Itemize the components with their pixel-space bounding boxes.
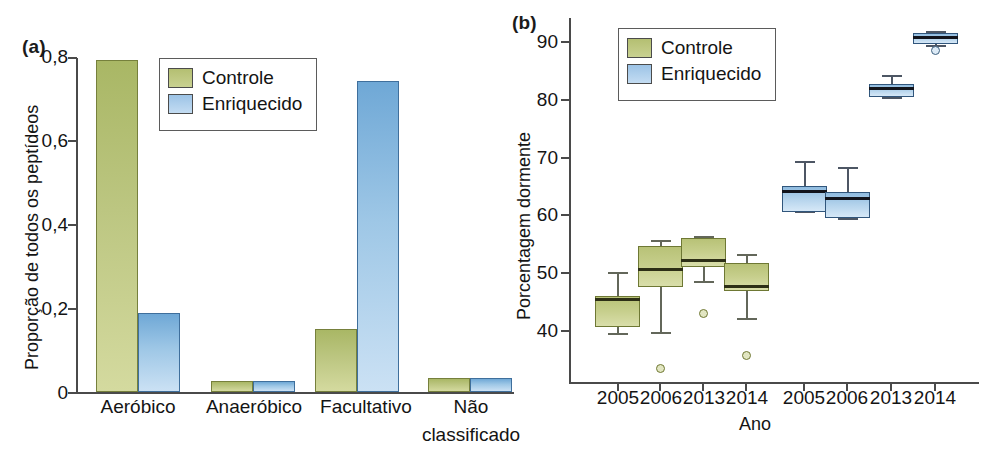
panel-b-ytick-mark-80: [561, 99, 570, 101]
panel-a-ytick-2: 0,4: [28, 214, 68, 236]
panel-b-legend-label-enriquecido: Enriquecido: [661, 63, 761, 85]
panel-a-x-axis-line: [76, 392, 514, 394]
panel-a-tick-1: [68, 308, 77, 310]
panel-b-ytick-mark-70: [561, 157, 570, 159]
panel-b-ytick-60: 60: [516, 204, 558, 226]
panel-b-ytick-mark-90: [561, 41, 570, 43]
box-controle-2006: [638, 246, 683, 287]
panel-b-xtick-7: 2014: [904, 387, 966, 409]
median-controle-2005: [595, 298, 640, 301]
panel-a-legend-label-controle: Controle: [202, 67, 274, 89]
panel-a-xtick-facultativo: Facultativo: [306, 396, 426, 418]
legend-swatch-enriquecido-icon: [168, 94, 193, 114]
outlier-controle-2013: [699, 309, 708, 318]
bar-controle-anaerobico: [211, 381, 253, 392]
panel-a-legend: Controle Enriquecido: [159, 58, 317, 131]
whisker-cap-bottom-controle-2005: [608, 333, 628, 335]
bar-enriquecido-aerobico: [138, 313, 180, 392]
whisker-cap-bottom-enriquecido-2013: [882, 97, 902, 99]
panel-b-legend-label-controle: Controle: [661, 37, 733, 59]
panel-b-ytick-80: 80: [516, 89, 558, 111]
panel-a-tick-2: [68, 224, 77, 226]
panel-a-legend-row-enriquecido: Enriquecido: [168, 91, 306, 117]
box-enriquecido-2013: [869, 84, 914, 97]
median-enriquecido-2006: [825, 197, 870, 200]
panel-a-y-axis-line: [76, 58, 78, 394]
panel-b-ytick-mark-50: [561, 272, 570, 274]
panel-a-tick-4: [68, 57, 77, 59]
outlier-controle-2014: [742, 351, 751, 360]
median-enriquecido-2013: [869, 87, 914, 90]
whisker-cap-top-enriquecido-2013: [882, 75, 902, 77]
panel-b-xtick-3: 2014: [716, 387, 778, 409]
whisker-cap-bottom-controle-2006: [651, 332, 671, 334]
bar-controle-facultativo: [315, 329, 357, 392]
panel-a-ytick-1: 0,2: [28, 298, 68, 320]
median-enriquecido-2005: [782, 190, 827, 193]
bar-enriquecido-facultativo: [357, 81, 399, 392]
panel-a-xtick-aerobico: Aeróbico: [78, 396, 198, 418]
box-enriquecido-2006: [825, 192, 870, 218]
median-controle-2013: [681, 259, 726, 262]
panel-b-ytick-90: 90: [516, 31, 558, 53]
legend-swatch-controle-icon: [627, 38, 652, 58]
median-enriquecido-2014: [913, 36, 958, 39]
outlier-enriquecido-2014: [931, 46, 940, 55]
panel-b-box-plot: (b) Porcentagem dormente 90 80 70 60 50 …: [490, 0, 981, 462]
whisker-cap-bottom-controle-2014: [737, 318, 757, 320]
panel-a-legend-row-controle: Controle: [168, 65, 306, 91]
bar-controle-nao-classificado: [428, 378, 470, 392]
whisker-cap-top-controle-2005: [608, 272, 628, 274]
scientific-figure: (a) Proporção de todos os peptídeos 0 0,…: [0, 0, 981, 462]
whisker-cap-bottom-enriquecido-2006: [838, 218, 858, 220]
bar-controle-aerobico: [96, 60, 138, 392]
panel-a-ytick-0: 0: [28, 382, 68, 404]
median-controle-2014: [724, 285, 769, 288]
panel-a-tick-0: [68, 392, 77, 394]
panel-b-x-axis-title: Ano: [739, 414, 771, 435]
bar-enriquecido-anaerobico: [253, 381, 295, 392]
panel-b-x-axis-line: [569, 382, 979, 384]
panel-a-ytick-3: 0,6: [28, 130, 68, 152]
whisker-cap-top-controle-2014: [737, 254, 757, 256]
panel-a-ytick-4: 0,8: [28, 46, 68, 68]
median-controle-2006: [638, 268, 683, 271]
panel-a-legend-label-enriquecido: Enriquecido: [202, 93, 302, 115]
panel-a-tick-3: [68, 140, 77, 142]
whisker-cap-top-enriquecido-2006: [838, 167, 858, 169]
panel-b-legend-row-enriquecido: Enriquecido: [627, 61, 765, 87]
panel-b-legend: Controle Enriquecido: [618, 28, 776, 101]
whisker-cap-bottom-controle-2013: [694, 281, 714, 283]
box-controle-2013: [681, 238, 726, 267]
panel-b-ytick-40: 40: [516, 320, 558, 342]
panel-a-bar-chart: (a) Proporção de todos os peptídeos 0 0,…: [0, 0, 500, 462]
whisker-cap-top-enriquecido-2005: [795, 161, 815, 163]
panel-b-ytick-mark-60: [561, 214, 570, 216]
panel-a-xtick-anaerobico: Anaeróbico: [190, 396, 318, 418]
panel-b-ytick-50: 50: [516, 262, 558, 284]
panel-b-ytick-70: 70: [516, 147, 558, 169]
panel-b-legend-row-controle: Controle: [627, 35, 765, 61]
legend-swatch-controle-icon: [168, 68, 193, 88]
panel-b-ytick-mark-40: [561, 330, 570, 332]
outlier-controle-2006: [656, 364, 665, 373]
legend-swatch-enriquecido-icon: [627, 64, 652, 84]
whisker-cap-top-controle-2006: [651, 240, 671, 242]
